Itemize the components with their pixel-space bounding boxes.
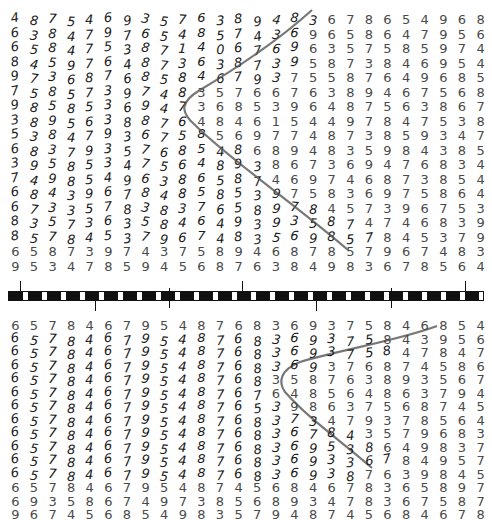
scale-tick xyxy=(20,281,21,293)
bottom-digit-grid: 6578467954876836937584685465784679548768… xyxy=(0,318,492,508)
scale-tick xyxy=(391,288,392,308)
scale-tick xyxy=(169,288,170,308)
scale-tick xyxy=(95,299,96,311)
scale-tick xyxy=(242,281,243,293)
scale-tick xyxy=(316,299,317,311)
digit-row: 96745685498357948745684678 xyxy=(6,507,490,520)
scale-bar xyxy=(8,291,484,301)
scale-tick xyxy=(465,281,466,293)
